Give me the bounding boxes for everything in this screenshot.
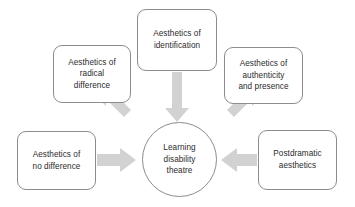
node-authenticity-label: Aesthetics of authenticity and presence <box>235 58 291 93</box>
node-center-label: Learning disability theatre <box>160 142 198 177</box>
node-radical-difference-label: Aesthetics of radical difference <box>65 57 119 92</box>
arrow-postdramatic-to-center <box>221 148 257 172</box>
node-identification[interactable]: Aesthetics of identification <box>137 9 217 71</box>
node-no-difference[interactable]: Aesthetics of no difference <box>17 131 96 190</box>
node-postdramatic[interactable]: Postdramatic aesthetics <box>258 130 337 190</box>
arrow-identification-to-center <box>165 72 189 122</box>
node-postdramatic-label: Postdramatic aesthetics <box>270 148 324 171</box>
node-center-learning-disability-theatre[interactable]: Learning disability theatre <box>142 122 217 197</box>
node-identification-label: Aesthetics of identification <box>150 28 204 51</box>
node-no-difference-label: Aesthetics of no difference <box>30 149 84 172</box>
arrow-no-difference-to-center <box>97 148 136 172</box>
node-radical-difference[interactable]: Aesthetics of radical difference <box>53 45 131 103</box>
node-authenticity[interactable]: Aesthetics of authenticity and presence <box>224 47 303 104</box>
diagram-canvas: Aesthetics of identification Aesthetics … <box>0 0 355 207</box>
